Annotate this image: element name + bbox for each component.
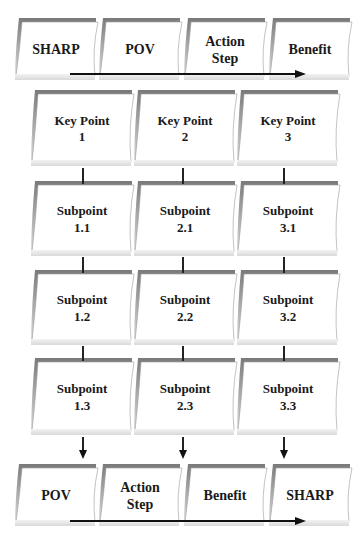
bottom-row-card: SHARP (268, 464, 352, 528)
connector-line (82, 257, 84, 273)
card-label: Subpoint 2.2 (133, 270, 237, 347)
card-label-line-1: Subpoint (57, 381, 108, 397)
card-label-line-1: Subpoint (160, 381, 211, 397)
card-label-line-1: POV (41, 487, 71, 505)
card-label: Subpoint 1.2 (30, 270, 134, 347)
card-label-line-1: POV (125, 41, 155, 59)
connector-line (82, 168, 84, 184)
card-label-line-2: 1.1 (74, 220, 90, 236)
card-label-line-2: 1.2 (74, 309, 90, 325)
bottom-row-card: Action Step (98, 464, 182, 528)
card-label: POV (14, 464, 98, 528)
card-label: Subpoint 2.3 (133, 358, 237, 437)
key-point-card: Key Point 1 (30, 90, 134, 168)
card-label-line-1: Subpoint (57, 203, 108, 219)
card-label-line-1: SHARP (286, 487, 333, 505)
right-arrow-icon (70, 73, 296, 75)
card-label-line-2: 3.3 (280, 398, 296, 414)
card-label: Subpoint 2.1 (133, 181, 237, 258)
card-label-line-1: Subpoint (263, 292, 314, 308)
card-label: Key Point 2 (133, 90, 237, 168)
card-label-line-2: 2.2 (177, 309, 193, 325)
subpoint-card: Subpoint 3.1 (236, 181, 340, 258)
card-label-line-1: Action (205, 33, 245, 51)
down-arrow-icon (182, 437, 184, 451)
bottom-row-card: POV (14, 464, 98, 528)
connector-line (283, 168, 285, 184)
card-label-line-2: Step (212, 50, 238, 68)
subpoint-card: Subpoint 3.2 (236, 270, 340, 347)
card-label-line-1: Action (120, 479, 160, 497)
subpoint-card: Subpoint 2.2 (133, 270, 237, 347)
card-label-line-2: 3.2 (280, 309, 296, 325)
subpoint-card: Subpoint 1.2 (30, 270, 134, 347)
card-label-line-1: Subpoint (263, 203, 314, 219)
card-label: Subpoint 3.1 (236, 181, 340, 258)
card-label: Subpoint 1.1 (30, 181, 134, 258)
connector-line (182, 168, 184, 184)
subpoint-card: Subpoint 1.3 (30, 358, 134, 437)
card-label: Benefit (183, 464, 267, 528)
card-label: Subpoint 1.3 (30, 358, 134, 437)
card-label-line-2: 3 (285, 129, 292, 145)
card-label-line-1: Benefit (204, 487, 247, 505)
card-label-line-2: 2 (182, 129, 189, 145)
connector-line (283, 346, 285, 361)
card-label: Subpoint 3.3 (236, 358, 340, 437)
connector-line (182, 346, 184, 361)
card-label-line-1: Key Point (157, 113, 212, 129)
card-label-line-1: Benefit (289, 41, 332, 59)
down-arrow-icon (82, 437, 84, 451)
key-point-card: Key Point 2 (133, 90, 237, 168)
card-label-line-2: 3.1 (280, 220, 296, 236)
card-label: Action Step (98, 464, 182, 528)
card-label-line-2: 1 (79, 129, 86, 145)
card-label-line-2: 2.1 (177, 220, 193, 236)
bottom-row-card: Benefit (183, 464, 267, 528)
card-label: Subpoint 3.2 (236, 270, 340, 347)
card-label-line-1: Key Point (260, 113, 315, 129)
down-arrow-icon (283, 437, 285, 451)
right-arrow-icon (70, 520, 296, 522)
card-label-line-2: Step (127, 496, 153, 514)
card-label-line-1: Key Point (54, 113, 109, 129)
connector-line (82, 346, 84, 361)
card-label: Key Point 1 (30, 90, 134, 168)
card-label-line-1: Subpoint (160, 292, 211, 308)
card-label: SHARP (268, 464, 352, 528)
connector-line (182, 257, 184, 273)
card-label-line-1: Subpoint (160, 203, 211, 219)
card-label-line-1: SHARP (32, 41, 79, 59)
subpoint-card: Subpoint 2.1 (133, 181, 237, 258)
subpoint-card: Subpoint 2.3 (133, 358, 237, 437)
subpoint-card: Subpoint 1.1 (30, 181, 134, 258)
card-label-line-2: 2.3 (177, 398, 193, 414)
card-label-line-1: Subpoint (57, 292, 108, 308)
card-label-line-2: 1.3 (74, 398, 90, 414)
card-label-line-1: Subpoint (263, 381, 314, 397)
key-point-card: Key Point 3 (236, 90, 340, 168)
card-label: Key Point 3 (236, 90, 340, 168)
connector-line (283, 257, 285, 273)
subpoint-card: Subpoint 3.3 (236, 358, 340, 437)
